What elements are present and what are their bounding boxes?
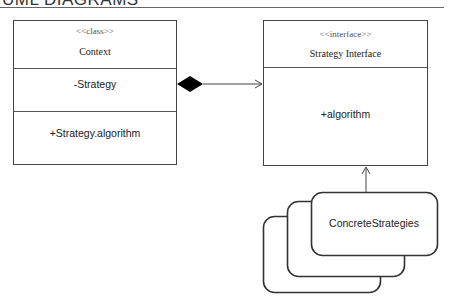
composition-diamond-icon — [177, 76, 203, 92]
concrete-stack — [264, 193, 438, 293]
connectors-layer — [0, 0, 450, 306]
concrete-strategies-label[interactable]: ConcreteStrategies — [311, 217, 437, 229]
aggregation-connector — [177, 76, 262, 92]
realization-connector — [362, 167, 370, 192]
